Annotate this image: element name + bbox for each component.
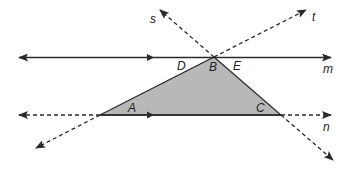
label-d: D xyxy=(177,60,186,72)
label-t: t xyxy=(312,11,315,23)
line-m xyxy=(19,54,331,61)
label-b: B xyxy=(209,61,217,73)
label-s: s xyxy=(150,13,156,25)
label-m: m xyxy=(323,63,333,75)
parallel-mark-m-icon xyxy=(147,54,154,61)
diagram-canvas xyxy=(0,0,350,173)
parallel-lines-triangle-diagram: s t m n D B E A C xyxy=(0,0,350,173)
label-a: A xyxy=(128,102,136,114)
label-c: C xyxy=(256,102,265,114)
label-e: E xyxy=(233,60,241,72)
label-n: n xyxy=(323,121,330,133)
